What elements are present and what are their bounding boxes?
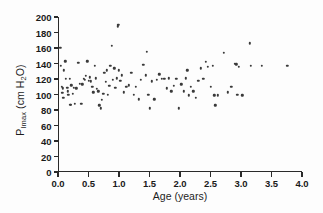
y-tick-label: 20: [41, 151, 52, 162]
data-point: [93, 65, 95, 67]
y-tick-label: 80: [41, 105, 52, 116]
data-point: [209, 86, 211, 88]
data-point: [114, 86, 116, 88]
data-point: [204, 61, 206, 63]
data-point: [68, 78, 70, 80]
data-point: [103, 72, 105, 74]
x-tick-mark: [240, 172, 241, 177]
data-point: [118, 69, 120, 71]
data-point: [91, 86, 93, 88]
data-point: [213, 94, 215, 96]
data-point: [61, 92, 63, 94]
data-point: [59, 47, 61, 49]
y-axis-label-main: P: [14, 129, 26, 136]
data-point: [261, 65, 263, 67]
data-point: [92, 91, 94, 93]
x-tick-label: 1.5: [143, 178, 156, 189]
data-point: [64, 60, 66, 62]
y-tick-mark: [54, 16, 59, 17]
data-point: [170, 90, 172, 92]
x-tick-label: 3.0: [234, 178, 247, 189]
y-axis-label-unit-end: O): [14, 64, 26, 76]
data-point: [178, 107, 180, 109]
x-tick-label: 2.0: [173, 178, 186, 189]
x-tick-mark: [210, 172, 211, 177]
y-tick-label: 40: [41, 136, 52, 147]
data-point: [156, 79, 158, 81]
data-point: [180, 83, 182, 85]
data-point: [135, 86, 137, 88]
data-point: [173, 85, 175, 87]
data-point: [153, 98, 155, 100]
data-point: [121, 74, 123, 76]
y-axis-label-unit-subscript: 2: [19, 76, 28, 80]
data-point: [106, 69, 108, 71]
data-point: [185, 77, 187, 79]
data-point: [65, 78, 67, 80]
y-tick-label: 140: [36, 58, 52, 69]
x-tick-label: 0.5: [82, 178, 95, 189]
data-point: [163, 78, 165, 80]
data-point: [112, 79, 114, 81]
data-point: [85, 75, 87, 77]
y-tick-label: 120: [36, 74, 52, 85]
data-point: [123, 91, 125, 93]
data-point: [175, 78, 177, 80]
data-point: [241, 94, 243, 96]
y-tick-label: 180: [36, 27, 52, 38]
y-tick-mark: [54, 109, 59, 110]
data-point: [104, 81, 106, 83]
data-point: [66, 86, 68, 88]
data-point: [113, 67, 115, 69]
data-point: [230, 86, 232, 88]
data-point: [165, 87, 167, 89]
data-point: [132, 93, 134, 95]
data-point: [248, 42, 250, 44]
y-tick-label: 60: [41, 120, 52, 131]
data-point: [62, 87, 64, 89]
data-point: [110, 44, 112, 46]
data-point: [102, 93, 104, 95]
y-axis-label-unit: (cm H: [14, 80, 26, 112]
y-tick-mark: [54, 63, 59, 64]
x-tick-label: 2.5: [204, 178, 217, 189]
data-point: [197, 79, 199, 81]
data-point: [97, 90, 99, 92]
x-tick-mark: [271, 172, 272, 177]
data-point: [212, 65, 214, 67]
data-point: [60, 65, 62, 67]
x-tick-mark: [301, 172, 302, 177]
data-point: [95, 77, 97, 79]
data-point: [67, 93, 69, 95]
y-axis-label-subscript: Imax: [19, 112, 28, 129]
y-tick-label: 0: [46, 167, 51, 178]
y-tick-mark: [54, 125, 59, 126]
x-tick-label: 1.0: [112, 178, 125, 189]
data-point: [158, 73, 160, 75]
x-tick-mark: [149, 172, 150, 177]
data-point: [98, 104, 100, 106]
data-point: [202, 78, 204, 80]
data-point: [75, 87, 77, 89]
data-point: [81, 83, 83, 85]
data-point: [223, 51, 225, 53]
data-point: [147, 93, 149, 95]
data-point: [107, 93, 109, 95]
data-point: [90, 80, 92, 82]
y-axis-line: [58, 17, 59, 172]
y-axis-label: PImax (cm H2O): [14, 25, 30, 175]
data-point: [217, 94, 219, 96]
x-axis-label: Age (years): [58, 190, 302, 202]
data-point: [186, 69, 188, 71]
data-point: [226, 91, 228, 93]
x-tick-mark: [118, 172, 119, 177]
data-point: [77, 62, 79, 64]
data-point: [192, 90, 194, 92]
y-tick-mark: [54, 94, 59, 95]
data-point: [207, 65, 209, 67]
data-point: [151, 80, 153, 82]
data-point: [137, 98, 139, 100]
plot-area: 020406080100120140160180200 0.00.51.01.5…: [58, 17, 302, 172]
data-point: [71, 93, 73, 95]
data-point: [286, 65, 288, 67]
